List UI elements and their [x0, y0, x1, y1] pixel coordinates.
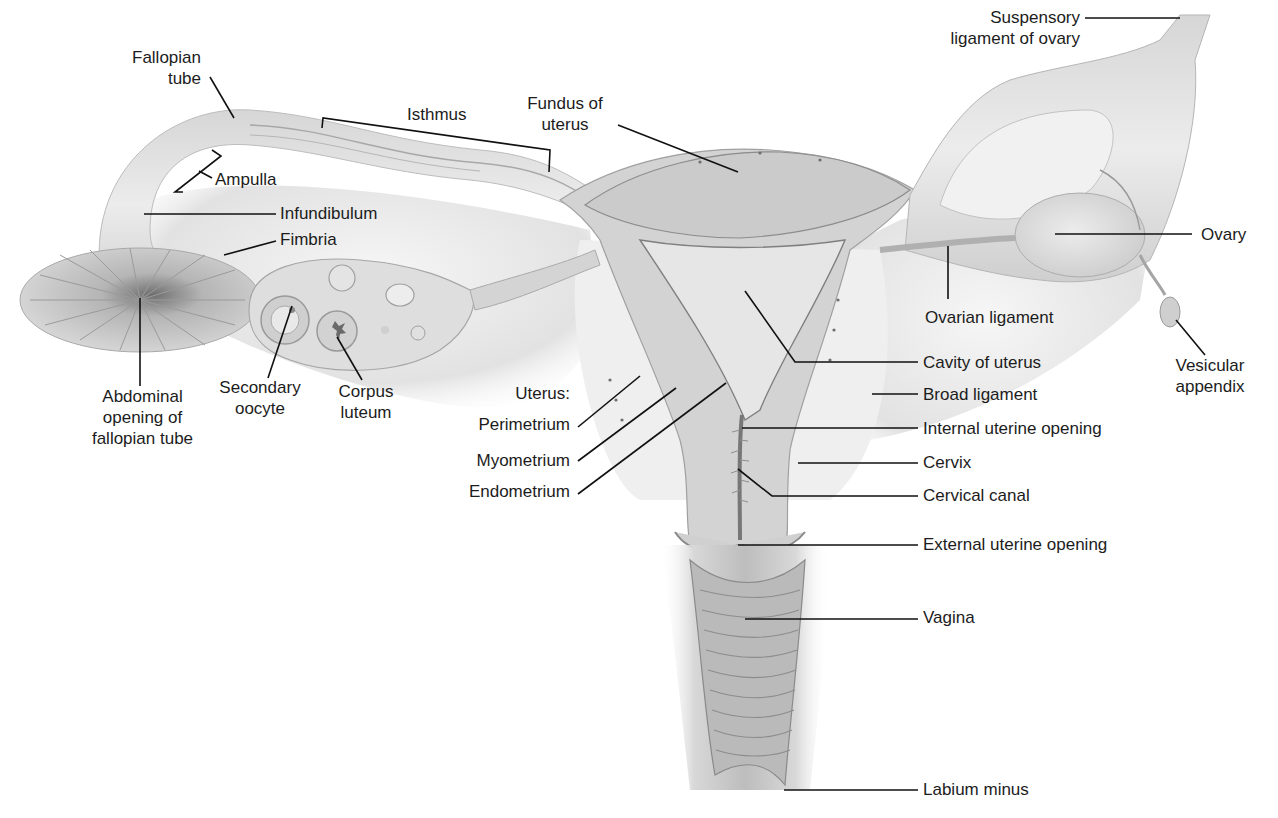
label-uterus-heading: Uterus: — [470, 383, 570, 404]
label-cervical-canal: Cervical canal — [923, 485, 1030, 506]
label-myometrium: Myometrium — [440, 450, 570, 471]
label-vesicular-appendix: Vesicular appendix — [1160, 355, 1260, 397]
label-line: Fallopian — [100, 47, 201, 68]
label-fundus-of-uterus: Fundus of uterus — [510, 93, 620, 135]
label-line: Secondary — [205, 377, 315, 398]
label-secondary-oocyte: Secondary oocyte — [205, 377, 315, 419]
label-line: Fundus of — [510, 93, 620, 114]
label-line: ligament of ovary — [930, 28, 1080, 49]
label-line: appendix — [1160, 376, 1260, 397]
label-line: Abdominal — [80, 386, 205, 407]
label-line: Suspensory — [930, 7, 1080, 28]
label-fimbria: Fimbria — [280, 229, 337, 250]
label-cavity-of-uterus: Cavity of uterus — [923, 352, 1041, 373]
label-fallopian-tube: Fallopian tube — [100, 47, 201, 89]
label-line: uterus — [510, 114, 620, 135]
vagina-shape — [660, 545, 830, 790]
label-line: Corpus — [326, 381, 406, 402]
label-endometrium: Endometrium — [440, 481, 570, 502]
vesicular-appendix-shape — [1140, 255, 1180, 327]
label-suspensory-ligament: Suspensory ligament of ovary — [930, 7, 1080, 49]
label-abdominal-opening: Abdominal opening of fallopian tube — [80, 386, 205, 449]
label-perimetrium: Perimetrium — [440, 414, 570, 435]
label-line: fallopian tube — [80, 428, 205, 449]
label-isthmus: Isthmus — [407, 104, 467, 125]
label-cervix: Cervix — [923, 452, 971, 473]
label-line: luteum — [326, 402, 406, 423]
label-ovary: Ovary — [1201, 224, 1246, 245]
label-corpus-luteum: Corpus luteum — [326, 381, 406, 423]
label-labium-minus: Labium minus — [923, 779, 1029, 800]
label-line: opening of — [80, 407, 205, 428]
label-infundibulum: Infundibulum — [280, 203, 377, 224]
label-ampulla: Ampulla — [215, 169, 276, 190]
label-internal-uterine-opening: Internal uterine opening — [923, 418, 1102, 439]
label-ovarian-ligament: Ovarian ligament — [925, 307, 1054, 328]
label-line: oocyte — [205, 398, 315, 419]
label-line: tube — [100, 68, 201, 89]
label-vagina: Vagina — [923, 607, 975, 628]
label-external-uterine-opening: External uterine opening — [923, 534, 1107, 555]
label-broad-ligament: Broad ligament — [923, 384, 1037, 405]
label-line: Vesicular — [1160, 355, 1260, 376]
